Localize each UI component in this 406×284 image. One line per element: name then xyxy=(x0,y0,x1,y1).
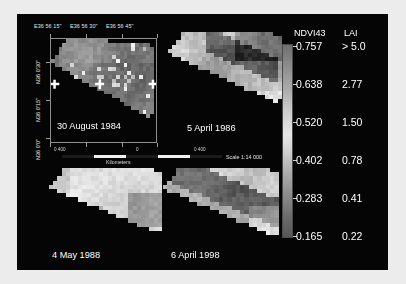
figure-canvas: E36 56 15" E36 56 30" E36 56 45" N36 0'3… xyxy=(17,14,388,270)
scale-bar-label-left: 0 400 xyxy=(54,147,66,152)
x-tick-mark xyxy=(157,34,158,38)
legend-ndvi-value-3: 0.520 xyxy=(296,116,322,128)
x-tick-label-3: E36 56 45" xyxy=(106,23,134,29)
y-tick-mark xyxy=(46,62,50,63)
legend-header-lai: LAI xyxy=(344,28,358,38)
legend-ndvi-value-1: 0.757 xyxy=(296,40,322,52)
panel-date-apr1998: 6 April 1998 xyxy=(171,250,220,260)
y-tick-mark xyxy=(46,100,50,101)
x-tick-mark xyxy=(86,34,87,38)
legend-lai-value-6: 0.22 xyxy=(342,230,362,242)
y-tick-label-2: N36 0'15" xyxy=(35,98,41,122)
legend-lai-value-5: 0.41 xyxy=(342,192,362,204)
panel-apr1986[interactable]: 5 April 1986 xyxy=(165,24,287,146)
legend-lai-value-3: 1.50 xyxy=(342,116,362,128)
raster-map-apr1998 xyxy=(163,168,283,254)
raster-map-may1988 xyxy=(49,168,164,250)
panel-apr1998[interactable]: 6 April 1998 xyxy=(157,162,287,268)
legend-group: NDVI43 LAI 0.757 0.638 0.520 0.402 0.283… xyxy=(272,28,384,260)
y-tick-label-1: N36 0'30" xyxy=(35,60,41,84)
panel-date-apr1986: 5 April 1986 xyxy=(187,123,236,133)
scale-bar-units: Kilometers xyxy=(106,159,131,165)
x-tick-label-2: E36 56 30" xyxy=(70,23,98,29)
panel-date-aug1984: 30 August 1984 xyxy=(57,121,121,131)
legend-lai-value-1: > 5.0 xyxy=(342,40,366,52)
legend-ndvi-value-4: 0.402 xyxy=(296,154,322,166)
figure-root: E36 56 15" E36 56 30" E36 56 45" N36 0'3… xyxy=(0,0,406,284)
y-tick-mark xyxy=(46,138,50,139)
colorbar-grayscale xyxy=(282,44,293,238)
scale-bar-segments xyxy=(62,155,222,158)
scale-bar-group: 0 400 0 0 400 Kilometers Scale 1:14 000 xyxy=(44,147,254,171)
raster-map-apr1986 xyxy=(168,32,284,122)
legend-ndvi-value-5: 0.283 xyxy=(296,192,322,204)
x-tick-mark xyxy=(122,34,123,38)
legend-lai-value-2: 2.77 xyxy=(342,78,362,90)
x-tick-label-1: E36 56 15" xyxy=(34,23,62,29)
y-tick-label-3: N36 0'0" xyxy=(35,139,41,160)
x-tick-mark xyxy=(50,34,51,38)
scale-bar-label-right: 0 400 xyxy=(194,147,206,152)
legend-lai-value-4: 0.78 xyxy=(342,154,362,166)
legend-header-ndvi: NDVI43 xyxy=(294,28,326,38)
scale-bar-label-center: 0 xyxy=(136,147,139,152)
scale-ratio-label: Scale 1:14 000 xyxy=(226,154,262,160)
legend-ndvi-value-2: 0.638 xyxy=(296,78,322,90)
panel-date-may1988: 4 May 1988 xyxy=(52,250,100,260)
panel-aug1984[interactable]: E36 56 15" E36 56 30" E36 56 45" N36 0'3… xyxy=(33,24,161,160)
legend-ndvi-value-6: 0.165 xyxy=(296,230,322,242)
panel-may1988[interactable]: 4 May 1988 xyxy=(41,162,169,268)
